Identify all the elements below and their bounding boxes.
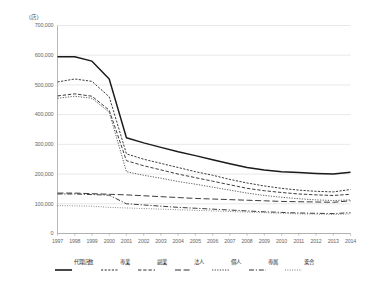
y-axis-tick-label: 400,000 <box>18 111 54 117</box>
legend-swatch-4 <box>212 259 229 265</box>
legend-label-5: 専属 <box>268 258 278 266</box>
legend-swatch-1 <box>101 259 118 265</box>
y-axis-tick-label: 500,000 <box>18 82 54 88</box>
x-axis-tick-label: 2009 <box>255 238 273 244</box>
x-axis-tick-label: 2002 <box>135 238 153 244</box>
legend-item-5[interactable]: 専属 <box>249 258 278 266</box>
line-chart: (店) 700,000600,000500,000400,000300,0002… <box>0 0 369 283</box>
legend-label-2: 副業 <box>157 258 167 266</box>
axis-lines-group <box>58 26 351 236</box>
x-axis-tick-label: 1997 <box>49 238 67 244</box>
y-axis-tick-label: 600,000 <box>18 52 54 58</box>
x-axis-tick-label: 2008 <box>238 238 256 244</box>
x-axis-tick-label: 2014 <box>342 238 360 244</box>
x-axis-tick-label: 2012 <box>307 238 325 244</box>
y-axis-tick-label: 100,000 <box>18 201 54 207</box>
legend-swatch-2 <box>138 259 155 265</box>
series-line-1 <box>58 79 351 192</box>
legend-swatch-0 <box>55 259 72 265</box>
x-axis-tick-label: 2003 <box>152 238 170 244</box>
x-axis-tick-label: 2001 <box>117 238 135 244</box>
x-axis-tick-label: 2004 <box>169 238 187 244</box>
y-axis-tick-label: 700,000 <box>18 22 54 28</box>
series-line-4 <box>58 96 351 200</box>
y-axis-tick-label: 0 <box>18 230 54 236</box>
x-axis-tick-label: 2010 <box>273 238 291 244</box>
legend-item-4[interactable]: 個人 <box>212 258 241 266</box>
y-axis-tick-label: 300,000 <box>18 141 54 147</box>
legend-label-1: 専業 <box>120 258 130 266</box>
series-line-6 <box>58 206 351 215</box>
legend-swatch-3 <box>175 259 192 265</box>
legend-swatch-6 <box>285 259 302 265</box>
legend-swatch-5 <box>249 259 266 265</box>
x-axis-tick-label: 2007 <box>221 238 239 244</box>
x-axis-tick-label: 2000 <box>100 238 118 244</box>
x-axis-tick-label: 2005 <box>186 238 204 244</box>
series-line-0 <box>58 57 351 174</box>
chart-legend: 代理店数専業副業法人個人専属乗合 <box>0 258 369 266</box>
legend-label-0: 代理店数 <box>74 258 94 266</box>
gridlines-group <box>58 26 351 234</box>
series-group <box>58 57 351 215</box>
legend-item-6[interactable]: 乗合 <box>285 258 314 266</box>
legend-item-3[interactable]: 法人 <box>175 258 204 266</box>
y-axis-tick-label: 200,000 <box>18 171 54 177</box>
legend-label-3: 法人 <box>194 258 204 266</box>
x-axis-tick-label: 1999 <box>83 238 101 244</box>
legend-item-2[interactable]: 副業 <box>138 258 167 266</box>
legend-item-0[interactable]: 代理店数 <box>55 258 94 266</box>
x-axis-tick-label: 2011 <box>290 238 308 244</box>
legend-label-4: 個人 <box>231 258 241 266</box>
x-axis-tick-label: 2013 <box>324 238 342 244</box>
legend-label-6: 乗合 <box>304 258 314 266</box>
legend-item-1[interactable]: 専業 <box>101 258 130 266</box>
x-axis-tick-label: 2006 <box>204 238 222 244</box>
x-axis-tick-label: 1998 <box>66 238 84 244</box>
